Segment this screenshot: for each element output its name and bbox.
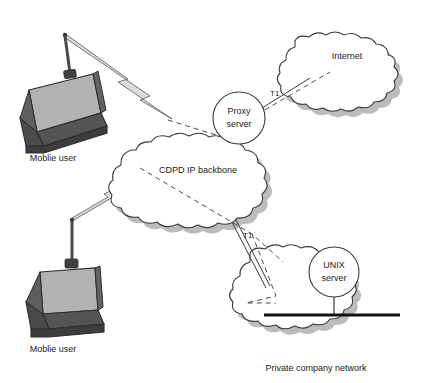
proxy-server-label-line2: server bbox=[226, 119, 251, 129]
proxy-server-label-line1: Proxy bbox=[227, 106, 251, 116]
diagram-canvas: CDPD IP backbone Internet Proxy server U… bbox=[0, 0, 435, 383]
unix-server-label-line2: server bbox=[321, 273, 346, 283]
internet-cloud[interactable] bbox=[277, 32, 398, 111]
laptop-screen-bottom bbox=[40, 268, 98, 314]
proxy-server-node[interactable] bbox=[213, 92, 265, 144]
t1-internet-link-label: T1 bbox=[270, 89, 280, 98]
mobile-user-top-device[interactable] bbox=[20, 33, 107, 153]
mobile-user-bottom-caption: Moblie user bbox=[30, 344, 77, 354]
cdpd-backbone-label: CDPD IP backbone bbox=[159, 165, 237, 175]
mobile-user-top-caption: Moblie user bbox=[30, 153, 77, 163]
unix-server-node[interactable] bbox=[309, 247, 359, 297]
mobile-user-bottom-device[interactable] bbox=[26, 218, 104, 337]
internet-label: Internet bbox=[332, 51, 363, 61]
antenna-mast-top bbox=[65, 36, 70, 73]
antenna-tip-top bbox=[63, 33, 67, 37]
unix-server-label-line1: UNIX bbox=[323, 260, 345, 270]
t1-private-link-label: T1 bbox=[243, 231, 253, 240]
antenna-base-bottom bbox=[65, 259, 78, 268]
antenna-base-top bbox=[64, 69, 77, 79]
network-diagram: CDPD IP backbone Internet Proxy server U… bbox=[0, 0, 435, 383]
cdpd-backbone-cloud[interactable] bbox=[109, 133, 267, 228]
private-company-network-caption: Private company network bbox=[265, 363, 367, 373]
antenna-tip-bottom bbox=[70, 218, 74, 222]
